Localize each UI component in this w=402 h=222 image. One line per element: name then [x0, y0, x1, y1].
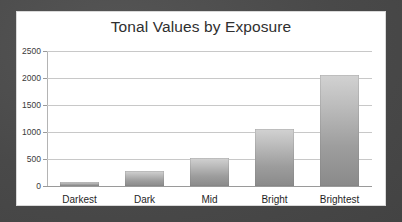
y-axis-tick-label: 1000 [22, 127, 41, 137]
plot-area: 05001000150020002500 DarkestDarkMidBrigh… [47, 51, 372, 186]
y-axis-tick-mark [43, 51, 47, 52]
y-axis-tick-label: 2000 [22, 73, 41, 83]
y-axis-tick-mark [43, 78, 47, 79]
y-axis-tick-label: 500 [27, 154, 41, 164]
y-axis-line [47, 51, 48, 186]
chart-panel: Tonal Values by Exposure 050010001500200… [17, 12, 385, 205]
y-axis-tick-label: 2500 [22, 46, 41, 56]
chart-title: Tonal Values by Exposure [17, 18, 385, 36]
x-axis-label-darkest: Darkest [62, 194, 96, 205]
x-axis-label-brightest: Brightest [320, 194, 359, 205]
y-axis-tick-mark [43, 105, 47, 106]
y-axis-tick-label: 0 [36, 181, 41, 191]
bar-brightest[interactable] [320, 75, 359, 186]
y-axis-tick-mark [43, 132, 47, 133]
x-axis-label-mid: Mid [201, 194, 217, 205]
bar-bright[interactable] [255, 129, 294, 186]
y-axis-tick-mark [43, 186, 47, 187]
bar-dark[interactable] [125, 171, 164, 186]
bar-mid[interactable] [190, 158, 229, 186]
x-axis-label-dark: Dark [134, 194, 155, 205]
x-axis-label-bright: Bright [261, 194, 287, 205]
gridline [47, 186, 372, 187]
y-axis-tick-label: 1500 [22, 100, 41, 110]
y-axis-tick-mark [43, 159, 47, 160]
gridline [47, 51, 372, 52]
bar-darkest[interactable] [60, 182, 99, 186]
